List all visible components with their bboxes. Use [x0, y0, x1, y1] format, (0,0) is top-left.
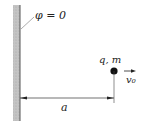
- velocity-label: v₀: [126, 74, 136, 85]
- diagram-canvas: [0, 0, 148, 129]
- distance-dimension: [20, 71, 114, 103]
- grounded-wall: [13, 5, 20, 121]
- wall-label-leader: [21, 17, 34, 29]
- particle-label: q, m: [99, 54, 121, 65]
- distance-label: a: [61, 101, 68, 114]
- velocity-arrow: [124, 69, 136, 73]
- wall-potential-label: φ = 0: [35, 9, 66, 22]
